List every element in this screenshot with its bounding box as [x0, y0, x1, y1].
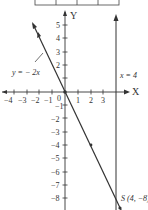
x-axis-label: X — [132, 86, 140, 97]
label-pointer — [35, 53, 43, 62]
y-tick-label: −1 — [55, 102, 64, 111]
x-tick-label: −1 — [44, 96, 53, 105]
y-tick-label: 3 — [56, 48, 60, 57]
x-axis-left-arrow-icon — [2, 90, 7, 94]
x-tick-label: −4 — [4, 96, 13, 105]
line2-label: x = 4 — [119, 71, 137, 80]
x-tick-label: −2 — [31, 96, 40, 105]
y-tick-label: 2 — [56, 61, 60, 70]
y-tick-label: −6 — [51, 168, 60, 177]
y-tick-label: −2 — [51, 115, 60, 124]
point-s — [118, 206, 121, 209]
x-tick-label: −3 — [18, 96, 27, 105]
origin-point — [63, 90, 67, 94]
y-axis-up-arrow-icon — [63, 10, 67, 16]
y-tick-label: −3 — [51, 128, 60, 137]
line-y-equals-neg-2x — [32, 22, 122, 210]
line1-point — [90, 144, 93, 147]
x-axis-right-arrow-icon — [124, 90, 130, 95]
y-tick-label: −8 — [51, 194, 60, 203]
y-tick-label: −7 — [51, 181, 60, 190]
line-x-equals-4 — [114, 14, 119, 210]
coordinate-diagram: X Y 0 −4 −3 −2 −1 1 2 3 5 4 3 2 −1 −2 −3… — [0, 0, 148, 210]
y-axis-label: Y — [70, 10, 77, 21]
y-tick-label: −5 — [51, 154, 60, 163]
line2-arrow-icon — [114, 14, 119, 21]
x-tick-label: 1 — [76, 96, 80, 105]
y-tick-label: 4 — [56, 34, 60, 43]
y-tick-label: −4 — [51, 141, 60, 150]
top-table-fragment — [35, 0, 119, 5]
point-s-label: S (4, −8) — [121, 194, 148, 203]
x-tick-label: 2 — [89, 96, 93, 105]
line1-label: y = − 2x — [11, 68, 40, 77]
line1-arrow-icon — [32, 22, 37, 29]
x-tick-label: 3 — [101, 96, 105, 105]
y-tick-label: 5 — [56, 21, 60, 30]
